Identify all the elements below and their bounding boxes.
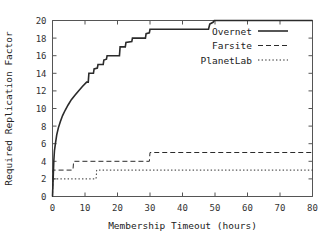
x-tick-label: 50 xyxy=(210,203,221,213)
y-tick-labels: 02468101214161820 xyxy=(36,16,47,202)
chart-figure: 02468101214161820 01020304050607080 Over… xyxy=(0,0,328,241)
series-line-farsite xyxy=(53,153,313,197)
y-tick-label: 20 xyxy=(36,16,47,26)
x-tick-label: 70 xyxy=(275,203,286,213)
x-tick-label: 80 xyxy=(307,203,318,213)
y-tick-label: 10 xyxy=(36,104,47,114)
chart-svg: 02468101214161820 01020304050607080 Over… xyxy=(0,0,328,241)
y-tick-label: 0 xyxy=(41,192,46,202)
legend: OvernetFarsitePlanetLab xyxy=(201,26,288,66)
y-tick-label: 4 xyxy=(41,157,46,167)
x-tick-label: 40 xyxy=(177,203,188,213)
y-tick-label: 18 xyxy=(36,34,47,44)
y-axis-title: Required Replication Factor xyxy=(3,31,14,186)
data-series-group xyxy=(53,21,313,197)
y-tick-label: 14 xyxy=(36,69,47,79)
x-tick-label: 60 xyxy=(242,203,253,213)
y-tick-label: 8 xyxy=(41,122,46,132)
y-tick-label: 12 xyxy=(36,86,47,96)
legend-label-planetlab: PlanetLab xyxy=(201,55,253,66)
y-tick-label: 6 xyxy=(41,139,46,149)
legend-label-farsite: Farsite xyxy=(212,40,252,51)
x-tick-label: 0 xyxy=(50,203,55,213)
x-tick-labels: 01020304050607080 xyxy=(50,203,318,213)
x-axis-title: Membership Timeout (hours) xyxy=(108,220,257,231)
x-tick-label: 10 xyxy=(80,203,91,213)
legend-label-overnet: Overnet xyxy=(212,26,252,37)
y-tick-label: 16 xyxy=(36,51,47,61)
x-tick-label: 30 xyxy=(145,203,156,213)
y-tick-label: 2 xyxy=(41,174,46,184)
x-tick-label: 20 xyxy=(112,203,123,213)
